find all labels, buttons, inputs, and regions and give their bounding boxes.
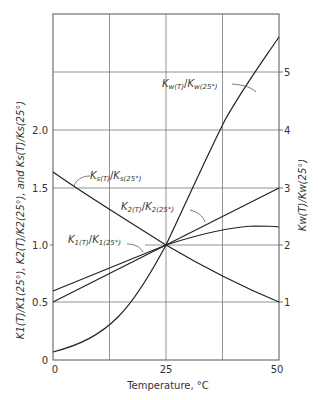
- x-tick-0: 0: [52, 364, 58, 375]
- r-tick-5: 5: [284, 67, 290, 78]
- k2-leader: [190, 210, 205, 222]
- y-axis-label-right: Kw(T)/Kw(25°): [297, 159, 308, 231]
- kw-label: Kw(T)/Kw(25°): [162, 78, 218, 91]
- y-tick-0: 0: [42, 355, 48, 366]
- r-tick-2: 2: [284, 240, 290, 251]
- y-tick-1.0: 1.0: [32, 240, 48, 251]
- y-tick-2.0: 2.0: [32, 125, 48, 136]
- ks-label: Ks(T)/Ks(25°): [90, 170, 142, 183]
- y-tick-1.5: 1.5: [32, 183, 48, 194]
- chart: Kw(T)/Kw(25°) Ks(T)/Ks(25°) K2(T)/K2(25°…: [0, 0, 318, 400]
- k1-label: K1(T)/K1(25°): [68, 234, 121, 247]
- r-tick-3: 3: [284, 183, 290, 194]
- r-tick-4: 4: [284, 125, 290, 136]
- y-axis-label-left: K1(T)/K1(25°), K2(T)/K2(25°), and Ks(T)/…: [15, 101, 26, 339]
- k1-leader: [127, 244, 143, 252]
- x-tick-50: 50: [271, 364, 284, 375]
- ks-leader: [74, 176, 90, 186]
- x-tick-25: 25: [160, 364, 173, 375]
- r-tick-1: 1: [284, 297, 290, 308]
- y-tick-0.5: 0.5: [32, 297, 48, 308]
- right-ticks: [279, 72, 283, 302]
- x-axis-label: Temperature, °C: [126, 380, 209, 391]
